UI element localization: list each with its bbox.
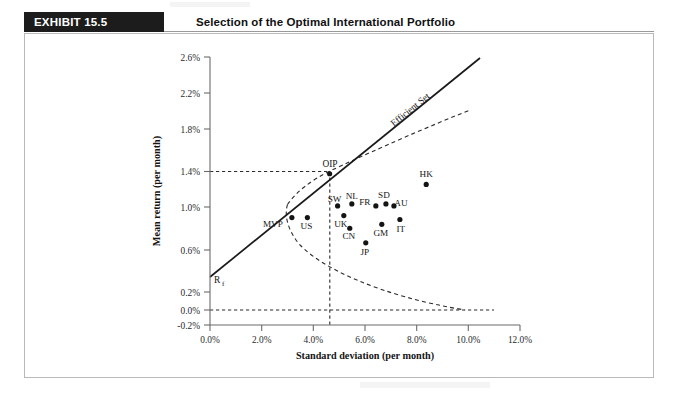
x-tick-label: 0.0% bbox=[200, 335, 220, 345]
data-point-uk bbox=[341, 213, 346, 218]
data-point-us bbox=[305, 215, 310, 220]
y-tick-label: 2.2% bbox=[180, 89, 200, 99]
data-point-gm bbox=[379, 222, 384, 227]
y-tick-label: 1.0% bbox=[180, 203, 200, 213]
x-axis-ticks bbox=[210, 325, 520, 331]
y-axis-ticks bbox=[204, 57, 210, 325]
data-point-label-sw: SW bbox=[328, 194, 342, 204]
y-tick-label: 1.4% bbox=[180, 167, 200, 177]
y-axis-title: Mean return (per month) bbox=[151, 136, 163, 246]
data-point-mvp bbox=[289, 215, 294, 220]
data-point-label-uk: UK bbox=[334, 219, 348, 229]
y-tick-label: 0.2% bbox=[180, 288, 200, 298]
risk-free-rate-label: R f bbox=[214, 275, 225, 288]
x-tick-label: 6.0% bbox=[355, 335, 375, 345]
data-point-label-gm: GM bbox=[373, 228, 388, 238]
efficient-set-label: Efficient Set bbox=[389, 91, 432, 129]
x-tick-label: 2.0% bbox=[252, 335, 272, 345]
x-tick-label: 4.0% bbox=[304, 335, 324, 345]
data-point-label-jp: JP bbox=[360, 247, 369, 257]
data-point-sw bbox=[335, 203, 340, 208]
x-tick-label: 12.0% bbox=[508, 335, 532, 345]
data-point-label-it: IT bbox=[397, 224, 406, 234]
exhibit-figure: EXHIBIT 15.5 Selection of the Optimal In… bbox=[0, 0, 677, 393]
y-tick-label: -0.2% bbox=[177, 321, 200, 331]
data-point-label-mvp: MVP bbox=[263, 219, 283, 229]
capital-market-line bbox=[210, 58, 480, 277]
data-point-it bbox=[397, 217, 402, 222]
data-point-label-fr: FR bbox=[359, 197, 371, 207]
data-point-oip bbox=[327, 171, 332, 176]
data-point-hk bbox=[424, 182, 429, 187]
data-point-label-au: AU bbox=[394, 198, 408, 208]
y-tick-label: 1.8% bbox=[180, 125, 200, 135]
svg-text:R: R bbox=[214, 275, 221, 285]
y-tick-label: 0.6% bbox=[180, 246, 200, 256]
data-point-fr bbox=[373, 203, 378, 208]
frontier-lower-branch bbox=[286, 205, 465, 311]
data-point-cn bbox=[347, 226, 352, 231]
data-point-sd bbox=[383, 201, 388, 206]
x-tick-label: 8.0% bbox=[407, 335, 427, 345]
oip-label: OIP bbox=[322, 159, 337, 169]
data-point-label-hk: HK bbox=[420, 169, 434, 179]
y-tick-label: 2.6% bbox=[180, 53, 200, 63]
x-axis-title: Standard deviation (per month) bbox=[296, 350, 434, 362]
y-tick-label: 0.0% bbox=[180, 306, 200, 316]
data-point-label-us: US bbox=[301, 221, 313, 231]
data-point-label-sd: SD bbox=[378, 190, 390, 200]
scatter-plot: 2.6% 2.2% 1.8% 1.4% 1.0% 0.6% 0.2% 0.0% … bbox=[0, 0, 677, 393]
data-point-nl bbox=[349, 201, 354, 206]
data-point-jp bbox=[363, 240, 368, 245]
svg-text:f: f bbox=[222, 280, 225, 288]
data-point-label-cn: CN bbox=[342, 231, 355, 241]
data-point-label-nl: NL bbox=[346, 191, 359, 201]
x-tick-label: 10.0% bbox=[456, 335, 480, 345]
